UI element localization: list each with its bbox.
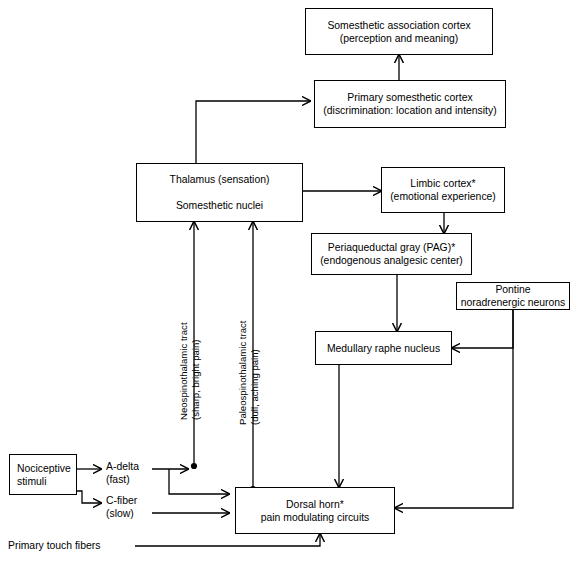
node-label-line: Dorsal horn*: [286, 498, 344, 511]
node-limbic-cortex[interactable]: Limbic cortex* (emotional experience): [381, 167, 505, 213]
node-label-line: Pontine: [495, 283, 530, 296]
node-label-line: Nociceptive: [17, 462, 71, 475]
node-nociceptive-stimuli[interactable]: Nociceptive stimuli: [9, 454, 77, 495]
node-label-line: Primary somesthetic cortex: [347, 91, 472, 104]
label-line: (dull, aching pain): [249, 320, 261, 425]
label-line: Neospinothalamic tract: [178, 322, 190, 420]
label-line: Paleospinothalamic tract: [237, 320, 249, 425]
edge-a-delta-to-dorsal-horn: [169, 469, 229, 494]
node-label-line: (perception and meaning): [340, 32, 458, 45]
node-label-line: Somesthetic association cortex: [327, 19, 470, 32]
label-line: (fast): [106, 474, 139, 487]
label-primary-touch-fibers: Primary touch fibers: [8, 540, 100, 553]
label-line: (slow): [106, 508, 137, 521]
node-primary-somesthetic-cortex[interactable]: Primary somesthetic cortex (discriminati…: [314, 80, 506, 128]
node-somesthetic-association-cortex[interactable]: Somesthetic association cortex (percepti…: [305, 8, 493, 55]
node-label-line: noradrenergic neurons: [461, 296, 566, 309]
node-pontine-noradrenergic-neurons[interactable]: Pontine noradrenergic neurons: [456, 282, 570, 310]
node-label-line: Limbic cortex*: [410, 177, 475, 190]
label-paleospinothalamic-tract: Paleospinothalamic tract (dull, aching p…: [237, 320, 260, 425]
node-thalamus[interactable]: Thalamus (sensation) Somesthetic nuclei: [136, 163, 303, 222]
label-line: C-fiber: [106, 495, 137, 508]
edge-nociceptive-to-c-fiber: [77, 491, 101, 503]
node-medullary-raphe-nucleus[interactable]: Medullary raphe nucleus: [315, 331, 452, 365]
node-dorsal-horn[interactable]: Dorsal horn* pain modulating circuits: [235, 487, 395, 534]
pain-pathway-diagram: Somesthetic association cortex (percepti…: [0, 0, 581, 566]
node-label-line: stimuli: [17, 475, 46, 488]
node-periaqueductal-gray[interactable]: Periaqueductal gray (PAG)* (endogenous a…: [311, 233, 472, 275]
edge-pontine-to-medullary-raphe: [452, 310, 513, 348]
edge-thalamus-to-primary-cortex: [196, 101, 310, 163]
node-label-line: Thalamus (sensation): [170, 173, 270, 186]
label-line: (sharp, bright pain): [190, 322, 202, 420]
node-label-line: Periaqueductal gray (PAG)*: [328, 241, 455, 254]
node-label-line: (emotional experience): [390, 190, 496, 203]
node-label-line: pain modulating circuits: [261, 511, 370, 524]
node-label-line: (discrimination: location and intensity): [323, 104, 496, 117]
node-label-line: Medullary raphe nucleus: [327, 342, 440, 355]
label-a-delta-fiber: A-delta (fast): [106, 461, 139, 486]
node-label-line: Somesthetic nuclei: [176, 199, 263, 212]
label-c-fiber: C-fiber (slow): [106, 495, 137, 520]
node-label-line: (endogenous analgesic center): [320, 254, 463, 267]
label-neospinothalamic-tract: Neospinothalamic tract (sharp, bright pa…: [178, 322, 201, 420]
label-line: A-delta: [106, 461, 139, 474]
label-line: Primary touch fibers: [8, 540, 100, 553]
edge-primary-touch-to-dorsal-horn: [135, 534, 320, 546]
synapse-dot-neospinothalamic: [191, 463, 197, 469]
